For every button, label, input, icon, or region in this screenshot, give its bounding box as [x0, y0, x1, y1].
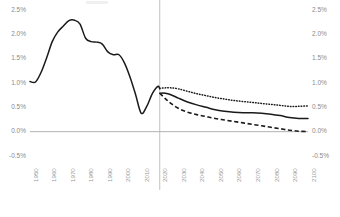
y-tick-label-left: 1.0% [2, 80, 26, 87]
series-line-high-variant [160, 88, 308, 107]
x-tick-label: 2080 [274, 168, 280, 182]
series-line-historical [30, 20, 160, 114]
y-tick-label-right: -0.5% [312, 153, 338, 160]
x-tick-label: 2100 [311, 168, 317, 182]
x-tick-label: 2090 [292, 168, 298, 182]
plot-svg [30, 10, 308, 156]
y-tick-label-right: 0.5% [312, 104, 338, 111]
x-tick-label: 1980 [88, 168, 94, 182]
x-tick-label: 2050 [218, 168, 224, 182]
cropped-title-fragment [86, 1, 108, 4]
x-tick-label: 1960 [51, 168, 57, 182]
y-tick-label-right: 0.0% [312, 128, 338, 135]
x-tick-label: 2000 [125, 168, 131, 182]
y-tick-label-left: 1.5% [2, 55, 26, 62]
y-tick-label-right: 1.5% [312, 55, 338, 62]
x-tick-label: 2030 [181, 168, 187, 182]
y-tick-label-right: 1.0% [312, 80, 338, 87]
x-tick-label: 1970 [70, 168, 76, 182]
y-tick-label-left: -0.5% [2, 153, 26, 160]
y-tick-label-right: 2.5% [312, 7, 338, 14]
y-tick-label-left: 2.0% [2, 31, 26, 38]
x-tick-label: 1950 [33, 168, 39, 182]
y-tick-label-right: 2.0% [312, 31, 338, 38]
x-tick-label: 2040 [199, 168, 205, 182]
y-tick-label-left: 2.5% [2, 7, 26, 14]
x-tick-label: 2020 [162, 168, 168, 182]
x-tick-label: 2060 [236, 168, 242, 182]
y-tick-label-left: 0.0% [2, 128, 26, 135]
x-tick-label: 2010 [144, 168, 150, 182]
y-tick-label-left: 0.5% [2, 104, 26, 111]
plot-area [30, 10, 308, 156]
x-tick-label: 2070 [255, 168, 261, 182]
population-growth-rate-chart: 2.5%2.5%2.0%2.0%1.5%1.5%1.0%1.0%0.5%0.5%… [0, 0, 340, 217]
x-tick-label: 1990 [107, 168, 113, 182]
